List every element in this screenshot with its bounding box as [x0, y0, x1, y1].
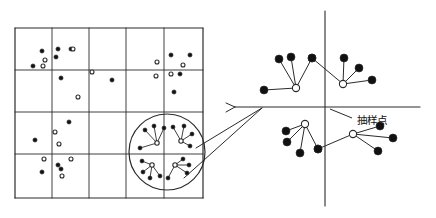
- cluster-lower-right-satellite-3: [314, 145, 322, 153]
- grid-point-filled-1: [54, 55, 58, 59]
- grid-point-hollow-5: [155, 60, 159, 64]
- mag-cluster-1-satellite-1: [182, 124, 186, 128]
- grid-point-filled-7: [169, 53, 173, 57]
- mag-cluster-3-satellite-3: [166, 176, 170, 180]
- cluster-lower-right-center: [349, 130, 356, 137]
- figure-canvas: 抽样点: [0, 0, 436, 218]
- mag-cluster-2-satellite-3: [158, 174, 162, 178]
- cluster-lower-right-edge-1: [353, 134, 393, 138]
- mag-cluster-0-satellite-0: [143, 128, 147, 132]
- grid-point-filled-14: [40, 170, 44, 174]
- grid-point-filled-15: [59, 167, 63, 171]
- grid-point-hollow-11: [42, 157, 46, 161]
- mag-cluster-2-satellite-2: [148, 176, 152, 180]
- mag-cluster-0-satellite-1: [152, 124, 156, 128]
- mag-cluster-0-center: [155, 141, 159, 145]
- x-axis-arrowhead-lower: [226, 107, 235, 112]
- mag-cluster-1-satellite-0: [171, 125, 175, 129]
- cluster-upper-right-satellite-0: [340, 54, 348, 62]
- grid-point-filled-0: [40, 49, 44, 53]
- magnifier-circle-region: [129, 114, 205, 190]
- cluster-upper-left-edge-2: [296, 58, 312, 88]
- cluster-upper-right-satellite-1: [355, 64, 363, 72]
- label-layer: 抽样点: [330, 109, 387, 126]
- cluster-upper-right-edge-2: [343, 80, 372, 84]
- grid-sample-points: [31, 47, 192, 178]
- grid-point-hollow-7: [154, 74, 158, 78]
- cluster-lower-left-satellite-1: [283, 138, 291, 146]
- grid-point-hollow-2: [41, 64, 45, 68]
- mag-cluster-1-satellite-2: [190, 132, 194, 136]
- grid-point-hollow-4: [76, 95, 80, 99]
- cluster-lower-left-center: [301, 120, 308, 127]
- grid-point-filled-8: [188, 53, 192, 57]
- mag-cluster-2-satellite-0: [140, 159, 144, 163]
- grid-point-filled-11: [67, 120, 71, 124]
- sampling-point-label: 抽样点: [357, 114, 387, 126]
- grid-point-filled-2: [56, 47, 60, 51]
- cluster-lower-right-edge-3: [318, 134, 353, 149]
- grid-point-filled-12: [33, 138, 37, 142]
- grid-point-hollow-1: [43, 58, 47, 62]
- grid-point-hollow-8: [169, 72, 173, 76]
- cluster-upper-left-satellite-0: [275, 55, 283, 63]
- grid-point-filled-4: [31, 64, 35, 68]
- cluster-upper-right-satellite-3: [308, 54, 316, 62]
- mag-cluster-2-center: [150, 163, 154, 167]
- grid-point-filled-10: [172, 90, 176, 94]
- grid-point-hollow-10: [57, 142, 61, 146]
- cluster-lower-right-satellite-1: [389, 134, 397, 142]
- cluster-lower-left-satellite-2: [296, 149, 304, 157]
- grid-point-filled-9: [178, 72, 182, 76]
- cluster-upper-right-edge-3: [312, 58, 343, 84]
- mag-cluster-3-satellite-0: [181, 157, 185, 161]
- label-leader-line: [330, 109, 352, 118]
- sampling-point-diagram: 抽样点: [0, 0, 436, 218]
- grid-point-hollow-0: [71, 47, 75, 51]
- grid-point-hollow-9: [53, 130, 57, 134]
- grid-point-hollow-13: [60, 174, 64, 178]
- cluster-upper-left-edge-3: [264, 88, 296, 90]
- coordinate-axes: [226, 11, 420, 206]
- cluster-lower-right-satellite-2: [374, 147, 382, 155]
- callout-edge-bottom: [184, 108, 262, 178]
- cluster-upper-left-satellite-1: [287, 53, 295, 61]
- x-axis-arrowhead-upper: [226, 103, 235, 107]
- grid-point-hollow-3: [90, 70, 94, 74]
- callout-arrow: [184, 108, 262, 178]
- cluster-lower-left-satellite-0: [282, 127, 290, 135]
- callout-edge-top: [196, 108, 262, 148]
- mag-cluster-1-satellite-3: [188, 144, 192, 148]
- mag-cluster-2-satellite-1: [141, 170, 145, 174]
- mag-cluster-3-satellite-1: [187, 163, 191, 167]
- cluster-upper-right-satellite-2: [368, 76, 376, 84]
- cluster-upper-left-center: [292, 84, 299, 91]
- cluster-upper-left-satellite-3: [260, 86, 268, 94]
- mag-cluster-0-satellite-3: [138, 146, 142, 150]
- axis-star-clusters: [260, 53, 397, 157]
- grid-point-hollow-6: [181, 63, 185, 67]
- mag-cluster-0-satellite-2: [162, 126, 166, 130]
- mag-cluster-1-center: [179, 139, 183, 143]
- grid-point-filled-5: [59, 76, 63, 80]
- mag-cluster-3-center: [173, 163, 177, 167]
- grid-point-hollow-12: [69, 157, 73, 161]
- grid-point-filled-6: [110, 78, 114, 82]
- cluster-upper-right-center: [339, 80, 346, 87]
- grid-point-filled-13: [56, 163, 60, 167]
